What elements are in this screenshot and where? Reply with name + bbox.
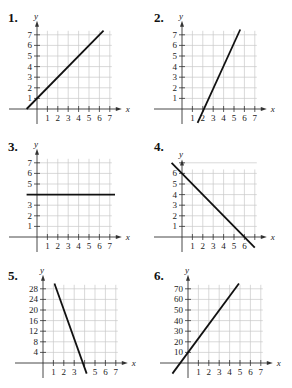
svg-text:1: 1 xyxy=(173,221,178,231)
svg-text:1: 1 xyxy=(28,93,33,103)
svg-text:4: 4 xyxy=(28,62,33,72)
svg-text:2: 2 xyxy=(56,113,61,123)
svg-text:4: 4 xyxy=(221,241,226,251)
svg-text:2: 2 xyxy=(56,241,61,251)
svg-text:1: 1 xyxy=(190,241,195,251)
svg-text:5: 5 xyxy=(173,51,178,61)
svg-text:6: 6 xyxy=(242,241,247,251)
svg-text:6: 6 xyxy=(97,241,102,251)
svg-text:7: 7 xyxy=(28,30,33,40)
axes xyxy=(154,21,267,124)
grid xyxy=(37,31,112,109)
svg-text:28: 28 xyxy=(29,284,39,294)
svg-text:3: 3 xyxy=(211,241,216,251)
graph-5: 123567481216202428xy xyxy=(0,258,146,388)
svg-text:5: 5 xyxy=(232,113,237,123)
svg-text:7: 7 xyxy=(114,367,119,377)
svg-text:7: 7 xyxy=(108,241,113,251)
svg-text:3: 3 xyxy=(72,367,77,377)
graph-panel-3: 3. 1234567123567xy xyxy=(0,129,146,258)
tick-labels: 123456123456 xyxy=(173,168,248,251)
graph-6: 123456710203040506070xy xyxy=(146,258,292,388)
svg-text:3: 3 xyxy=(28,200,33,210)
svg-text:2: 2 xyxy=(207,367,212,377)
svg-text:2: 2 xyxy=(201,241,206,251)
x-axis-label: x xyxy=(276,358,281,368)
x-axis-label: x xyxy=(131,358,136,368)
graph-panel-1: 1. 12345671234567xy xyxy=(0,0,146,129)
svg-text:1: 1 xyxy=(45,113,50,123)
svg-text:4: 4 xyxy=(173,62,178,72)
graph-2: 12345671234567xy xyxy=(146,0,292,129)
svg-text:4: 4 xyxy=(221,113,226,123)
svg-text:1: 1 xyxy=(173,93,178,103)
y-axis-label: y xyxy=(184,265,189,275)
graph-panel-2: 2. 12345671234567xy xyxy=(146,0,292,129)
grid xyxy=(43,285,118,363)
svg-text:6: 6 xyxy=(28,40,33,50)
svg-text:3: 3 xyxy=(173,72,178,82)
svg-text:2: 2 xyxy=(173,83,178,93)
y-axis-label: y xyxy=(39,265,44,275)
svg-text:1: 1 xyxy=(45,241,50,251)
svg-text:12: 12 xyxy=(29,326,38,336)
svg-text:7: 7 xyxy=(259,367,264,377)
svg-text:4: 4 xyxy=(76,113,81,123)
svg-text:6: 6 xyxy=(103,367,108,377)
grid xyxy=(182,31,257,109)
svg-text:4: 4 xyxy=(173,190,178,200)
svg-text:1: 1 xyxy=(51,367,56,377)
svg-text:2: 2 xyxy=(28,83,33,93)
y-axis-label: y xyxy=(178,149,183,159)
graph-3: 1234567123567xy xyxy=(0,129,146,258)
svg-text:2: 2 xyxy=(62,367,67,377)
svg-text:6: 6 xyxy=(28,168,33,178)
svg-text:5: 5 xyxy=(238,367,243,377)
svg-text:70: 70 xyxy=(174,284,184,294)
svg-text:24: 24 xyxy=(29,294,39,304)
svg-text:5: 5 xyxy=(28,179,33,189)
graph-panel-4: 4. 123456123456xy xyxy=(146,129,292,258)
x-axis-label: x xyxy=(125,232,130,242)
svg-text:6: 6 xyxy=(242,113,247,123)
svg-text:20: 20 xyxy=(174,337,184,347)
svg-text:2: 2 xyxy=(28,211,33,221)
svg-text:5: 5 xyxy=(173,179,178,189)
graph-4: 123456123456xy xyxy=(146,129,292,258)
svg-text:6: 6 xyxy=(173,168,178,178)
y-axis-label: y xyxy=(178,11,183,21)
svg-text:6: 6 xyxy=(248,367,253,377)
axes xyxy=(9,149,122,252)
svg-text:60: 60 xyxy=(174,294,184,304)
svg-text:5: 5 xyxy=(87,241,92,251)
svg-text:8: 8 xyxy=(34,337,39,347)
svg-text:5: 5 xyxy=(232,241,237,251)
x-axis-label: x xyxy=(270,232,275,242)
svg-text:40: 40 xyxy=(174,316,184,326)
svg-text:30: 30 xyxy=(174,326,184,336)
svg-text:3: 3 xyxy=(66,241,71,251)
svg-text:3: 3 xyxy=(28,72,33,82)
svg-text:2: 2 xyxy=(173,211,178,221)
svg-text:6: 6 xyxy=(173,40,178,50)
svg-text:7: 7 xyxy=(108,113,113,123)
graph-panel-6: 6. 123456710203040506070xy xyxy=(146,258,292,387)
plot-line xyxy=(27,31,104,109)
svg-text:5: 5 xyxy=(87,113,92,123)
svg-text:6: 6 xyxy=(97,113,102,123)
plot-line xyxy=(54,284,86,374)
svg-text:4: 4 xyxy=(227,367,232,377)
svg-text:16: 16 xyxy=(29,316,39,326)
svg-text:7: 7 xyxy=(253,113,258,123)
grid xyxy=(188,285,263,363)
x-axis-label: x xyxy=(125,104,130,114)
svg-text:3: 3 xyxy=(173,200,178,210)
svg-text:1: 1 xyxy=(28,221,33,231)
svg-text:5: 5 xyxy=(28,51,33,61)
svg-text:4: 4 xyxy=(34,347,39,357)
svg-text:7: 7 xyxy=(28,158,33,168)
svg-text:3: 3 xyxy=(217,367,222,377)
svg-text:1: 1 xyxy=(190,113,195,123)
svg-text:4: 4 xyxy=(76,241,81,251)
svg-text:3: 3 xyxy=(66,113,71,123)
